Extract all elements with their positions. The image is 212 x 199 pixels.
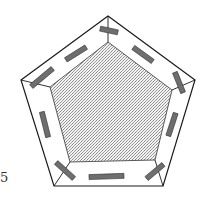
figure-label: 5	[0, 170, 8, 185]
pentagon-diagram	[0, 0, 212, 199]
